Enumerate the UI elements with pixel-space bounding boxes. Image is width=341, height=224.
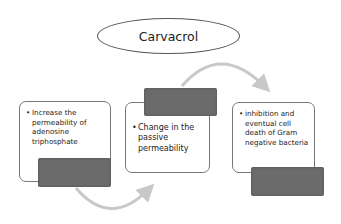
arrow-step1-to-step2	[76, 188, 148, 209]
step-label-block-2	[144, 88, 217, 116]
diagram-title: Carvacrol	[139, 29, 198, 44]
step-text: Increase the permeability of adenosine t…	[32, 108, 105, 146]
step-label-block-3	[251, 167, 324, 196]
step-text: inhibition and eventual cell death of Gr…	[245, 109, 309, 147]
step-card-3: • inhibition and eventual cell death of …	[232, 102, 315, 173]
step-text: Change in the passive permeability	[138, 123, 204, 154]
title-ellipse: Carvacrol	[97, 18, 240, 54]
step-label-block-1	[38, 158, 111, 187]
arrow-step2-to-step3	[182, 64, 264, 86]
